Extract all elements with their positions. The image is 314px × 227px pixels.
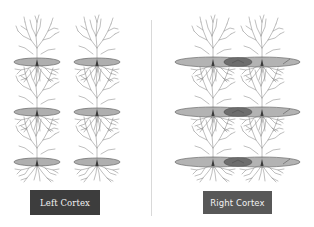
right-cortex-button-label: Right Cortex [210, 198, 264, 208]
right-cortex-button[interactable]: Right Cortex [203, 191, 272, 214]
panel-divider [151, 20, 152, 216]
left-cortex-button-label: Left Cortex [40, 198, 90, 208]
left-cortex-button[interactable]: Left Cortex [30, 190, 100, 215]
left-cortex-panel [14, 15, 120, 182]
right-cortex-panel [175, 15, 300, 182]
